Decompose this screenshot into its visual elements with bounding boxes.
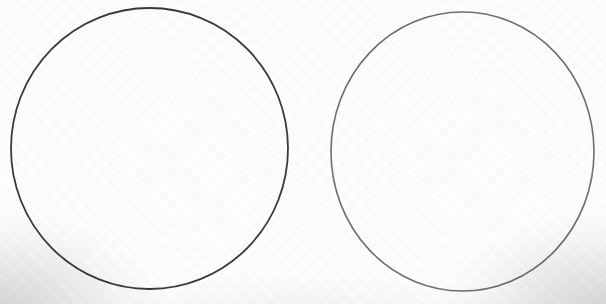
left-circle xyxy=(11,8,288,289)
right-circle xyxy=(331,12,594,291)
shapes-container xyxy=(0,0,606,304)
shapes-svg xyxy=(0,0,606,304)
image-canvas xyxy=(0,0,606,304)
